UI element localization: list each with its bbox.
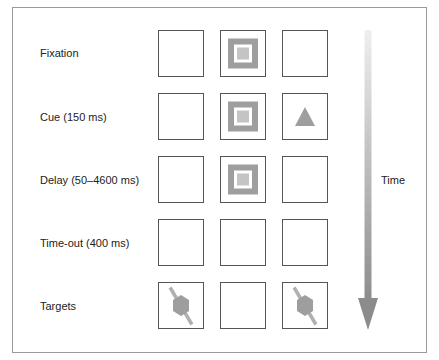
cell-delay-center: [220, 156, 266, 203]
row-label-targets: Targets: [40, 300, 76, 312]
cell-delay-left: [158, 156, 204, 203]
time-arrow-icon: [356, 30, 380, 332]
row-label-timeout: Time-out (400 ms): [40, 237, 129, 249]
cell-delay-right: [282, 156, 328, 203]
triangle-cue-icon: [283, 94, 327, 139]
hexagon-target-icon: [283, 283, 327, 328]
cell-targets-left: [158, 282, 204, 329]
row-label-delay: Delay (50–4600 ms): [40, 174, 139, 186]
time-axis-label: Time: [381, 174, 405, 186]
fixation-square-icon: [221, 31, 265, 76]
cell-cue-center: [220, 93, 266, 140]
cell-cue-left: [158, 93, 204, 140]
fixation-square-icon: [221, 94, 265, 139]
row-label-cue: Cue (150 ms): [40, 111, 107, 123]
cell-fixation-left: [158, 30, 204, 77]
cell-targets-right: [282, 282, 328, 329]
cell-timeout-left: [158, 219, 204, 266]
hexagon-target-icon: [159, 283, 203, 328]
cell-timeout-center: [220, 219, 266, 266]
cell-cue-right: [282, 93, 328, 140]
fixation-square-icon: [221, 157, 265, 202]
row-label-fixation: Fixation: [40, 47, 79, 59]
cell-targets-center: [220, 282, 266, 329]
cell-fixation-right: [282, 30, 328, 77]
cell-timeout-right: [282, 219, 328, 266]
cell-fixation-center: [220, 30, 266, 77]
